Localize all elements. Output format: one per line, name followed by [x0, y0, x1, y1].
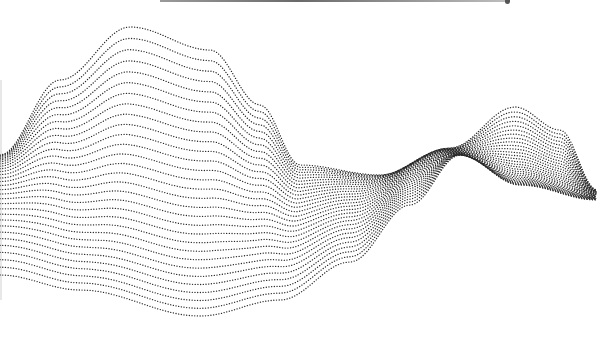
dotted-wave-line	[0, 153, 596, 226]
dotted-wave-line	[0, 27, 596, 190]
dotted-wave-line	[0, 155, 596, 301]
dotted-wave-line	[0, 152, 596, 212]
dotted-wave-line	[0, 93, 596, 192]
dotted-wave-line	[0, 154, 596, 251]
dotted-wave-line	[0, 155, 596, 316]
dotted-wave-illustration	[0, 0, 597, 337]
dotted-wave-line	[0, 61, 596, 191]
dotted-wave-line	[0, 155, 596, 293]
dotted-wave-line	[0, 152, 596, 216]
dotted-wave-line	[0, 104, 596, 193]
dotted-wave-line	[0, 134, 596, 195]
dotted-wave-line	[0, 50, 596, 191]
dotted-wave-line	[0, 124, 596, 193]
dotted-wave-line	[0, 114, 596, 193]
